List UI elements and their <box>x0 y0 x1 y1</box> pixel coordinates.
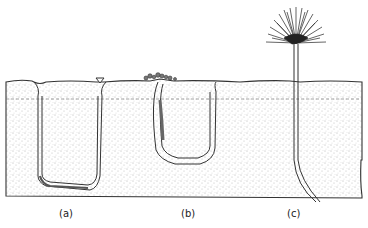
panel-label-c: (c) <box>287 208 300 219</box>
sediment-block <box>6 79 362 198</box>
burrow-diagram <box>0 0 368 228</box>
panel-label-b: (b) <box>181 208 195 219</box>
tentacle-crown-icon <box>266 7 326 44</box>
panel-label-a: (a) <box>59 208 73 219</box>
